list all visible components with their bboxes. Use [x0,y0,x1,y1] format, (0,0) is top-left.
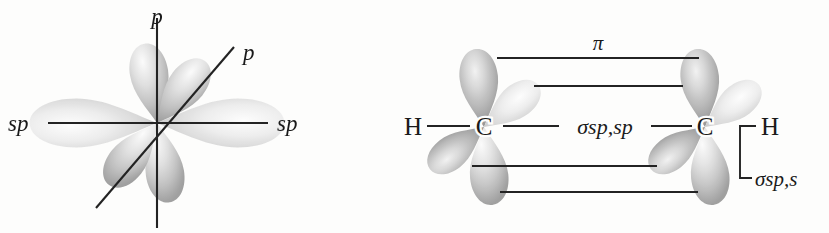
atom-carbon-left: C [476,113,493,140]
label-pi-bond: π [593,31,604,55]
label-p-vertical: p [149,4,163,29]
atom-carbon-right: C [697,113,714,140]
label-sigma-sp-s: σsp,s [755,167,797,191]
sigma-sp-s-bracket [740,126,756,178]
label-sigma-sp-sp: σsp,sp [577,114,632,139]
label-p-diagonal: p [241,40,255,65]
label-sp-right: sp [277,111,297,136]
orbital-figure-svg: p p sp sp [0,0,829,233]
label-sp-left: sp [8,111,28,136]
left-diagram: p p sp sp [8,4,297,228]
right-diagram: C C H H π σsp,sp σsp,s [404,31,797,207]
atom-hydrogen-right: H [761,113,779,140]
figure-canvas: p p sp sp [0,0,829,233]
atom-hydrogen-left: H [404,113,422,140]
